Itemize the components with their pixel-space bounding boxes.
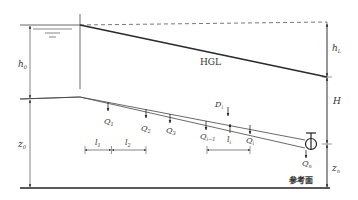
label-Q1: Q1 [104, 117, 114, 127]
pipe-top-wall [20, 97, 305, 148]
pipeline-hydraulic-diagram: h0 hL HGL H z0 zn Di Q1 Q2 Q3 Qi−1 Qi Qn… [0, 0, 358, 200]
label-z0: z0 [17, 139, 27, 150]
label-Q2: Q2 [141, 124, 151, 134]
water-surface-icon [33, 29, 72, 37]
pipe-top [80, 89, 305, 132]
label-Q3: Q3 [166, 126, 176, 136]
label-HGL: HGL [200, 57, 221, 67]
label-h0: h0 [18, 59, 28, 70]
label-Qi: Qi [246, 136, 255, 146]
static-head-dashed-line [80, 22, 327, 25]
label-l1: l1 [95, 138, 101, 148]
label-H: H [332, 96, 341, 106]
pipe-line-upper-slope [80, 97, 305, 140]
label-li-arrow: li [227, 135, 232, 145]
label-zn: zn [331, 163, 340, 174]
label-Di: Di [214, 100, 223, 110]
hgl-line [80, 25, 327, 77]
valve-icon [306, 133, 317, 150]
label-Qn: Qn [302, 159, 312, 169]
label-Qi-1: Qi−1 [200, 132, 216, 142]
pipe-line-upper [20, 97, 80, 99]
label-l2: l2 [125, 138, 131, 148]
label-hL: hL [332, 43, 342, 54]
label-reference-plane: 参考面 [288, 175, 313, 185]
pipe-line-lower [20, 99, 305, 148]
